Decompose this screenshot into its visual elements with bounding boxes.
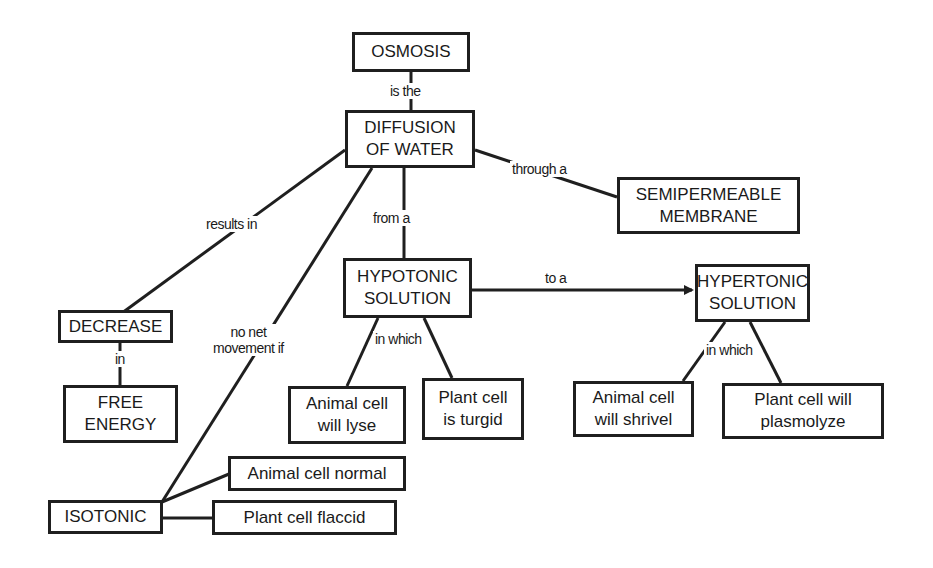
node-animal-cell-will-lyse: Animal cell will lyse: [288, 386, 406, 444]
link-no-net-movement-if: no net movement if: [211, 324, 286, 356]
node-diffusion-of-water: DIFFUSION OF WATER: [345, 110, 475, 168]
node-hypertonic-solution: HYPERTONIC SOLUTION: [695, 264, 810, 322]
link-in-which-hypotonic: in which: [373, 331, 424, 347]
link-in: in: [113, 351, 127, 367]
node-osmosis: OSMOSIS: [352, 32, 470, 72]
node-plant-cell-will-plasmolyze: Plant cell will plasmolyze: [722, 383, 884, 439]
node-animal-cell-will-shrivel: Animal cell will shrivel: [573, 381, 694, 437]
node-isotonic: ISOTONIC: [48, 500, 163, 534]
link-through-a: through a: [510, 161, 569, 177]
link-to-a: to a: [543, 270, 568, 286]
node-plant-cell-is-turgid: Plant cell is turgid: [422, 378, 524, 440]
link-in-which-hypertonic: in which: [704, 342, 755, 358]
node-semipermeable-membrane: SEMIPERMEABLE MEMBRANE: [617, 177, 800, 234]
link-is-the: is the: [388, 83, 422, 99]
node-plant-cell-flaccid: Plant cell flaccid: [212, 500, 397, 535]
node-animal-cell-normal: Animal cell normal: [228, 456, 406, 491]
link-results-in: results in: [204, 216, 259, 232]
node-free-energy: FREE ENERGY: [63, 385, 178, 443]
node-hypotonic-solution: HYPOTONIC SOLUTION: [343, 258, 472, 318]
node-decrease: DECREASE: [58, 310, 173, 343]
link-from-a: from a: [371, 210, 412, 226]
